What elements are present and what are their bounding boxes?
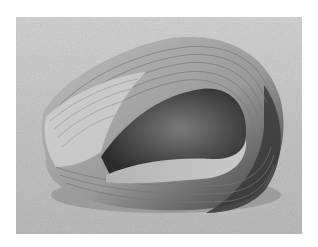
photo-canvas (16, 17, 302, 234)
photograph (16, 17, 302, 234)
